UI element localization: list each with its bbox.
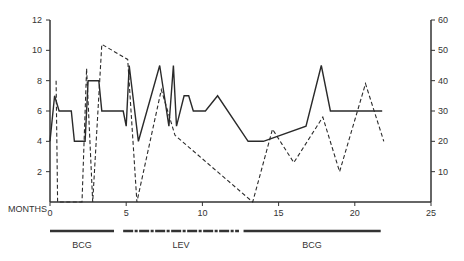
y-tick-label-right: 60 bbox=[438, 15, 448, 25]
y-tick-label-left: 12 bbox=[32, 15, 42, 25]
x-tick-label: 25 bbox=[426, 208, 436, 218]
y-tick-label-right: 20 bbox=[438, 136, 448, 146]
x-tick-label: 10 bbox=[197, 208, 207, 218]
x-tick-label: 5 bbox=[124, 208, 129, 218]
y-tick-label-right: 10 bbox=[438, 167, 448, 177]
series-solid-line bbox=[50, 66, 382, 142]
chart-container: 246810121020304050600510152025MONTHSBCGL… bbox=[0, 0, 464, 261]
treatment-label: BCG bbox=[72, 240, 92, 250]
y-tick-label-left: 8 bbox=[37, 76, 42, 86]
y-tick-label-left: 6 bbox=[37, 106, 42, 116]
y-tick-label-right: 30 bbox=[438, 106, 448, 116]
x-tick-label: 0 bbox=[47, 208, 52, 218]
y-tick-label-left: 2 bbox=[37, 167, 42, 177]
treatment-label: LEV bbox=[173, 240, 190, 250]
y-tick-label-right: 40 bbox=[438, 76, 448, 86]
treatment-label: BCG bbox=[302, 240, 322, 250]
y-tick-label-left: 4 bbox=[37, 136, 42, 146]
x-tick-label: 20 bbox=[350, 208, 360, 218]
x-tick-label: 15 bbox=[274, 208, 284, 218]
y-tick-label-right: 50 bbox=[438, 45, 448, 55]
y-tick-label-left: 10 bbox=[32, 45, 42, 55]
series-dashed-line bbox=[56, 44, 384, 202]
x-axis-label: MONTHS bbox=[8, 204, 47, 214]
line-chart: 246810121020304050600510152025MONTHSBCGL… bbox=[0, 0, 464, 261]
